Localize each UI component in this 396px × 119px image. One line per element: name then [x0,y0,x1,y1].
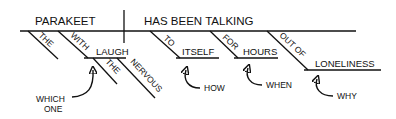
subject-word: PARAKEET [35,15,96,27]
object-itself: ITSELF [182,46,214,57]
annotation-when: WHEN [266,80,292,90]
how-arrow [185,70,200,88]
which-one-arrow [72,70,93,97]
prep-to: TO [162,33,178,49]
annotation-how: HOW [204,83,225,93]
object-hours: HOURS [243,46,277,57]
annotation-which: WHICH [36,94,65,104]
to-slant [150,31,180,58]
predicate-words: HAS BEEN TALKING [144,15,254,27]
prep-for: FOR [221,32,241,52]
annotation-one: ONE [44,104,63,114]
why-arrow [316,79,333,96]
when-arrow [247,68,262,85]
object-laugh: LAUGH [96,46,129,57]
annotation-why: WHY [337,91,357,101]
prep-with: WITH [69,30,92,52]
sentence-diagram: PARAKEET HAS BEEN TALKING THE WITH LAUGH… [0,0,396,119]
object-loneliness: LONELINESS [315,58,375,69]
article-the: THE [37,30,56,49]
